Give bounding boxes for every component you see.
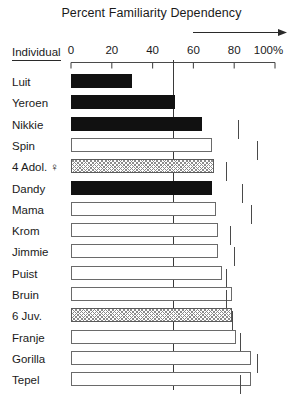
- bar-row: Mama: [0, 200, 303, 221]
- bar-category-label: Yeroen: [12, 97, 48, 110]
- bar-row: Yeroen: [0, 93, 303, 114]
- x-tick-label-60: 60: [187, 44, 200, 56]
- bar-category-label: Puist: [12, 268, 38, 281]
- bar-row: Franje: [0, 328, 303, 349]
- bar-category-label: Franje: [12, 332, 45, 345]
- bar-row: Luit: [0, 72, 303, 93]
- x-axis-line: [0, 60, 303, 72]
- bar-franje: [71, 330, 236, 344]
- bar-dandy: [71, 181, 212, 195]
- bar-krom: [71, 223, 218, 237]
- bar-category-label: Jimmie: [12, 246, 48, 259]
- direction-arrow-icon: [193, 28, 287, 37]
- bar-category-label: Dandy: [12, 183, 45, 196]
- percent-familiarity-dependency-chart: Percent Familiarity Dependency Individua…: [0, 0, 303, 415]
- range-tick-mark: [240, 375, 241, 394]
- x-tick-label-0: 0: [68, 44, 74, 56]
- bar-category-label: Bruin: [12, 289, 39, 302]
- bar-tepel: [71, 372, 251, 386]
- bar-mama: [71, 202, 216, 216]
- bar-row: Bruin: [0, 285, 303, 306]
- x-axis-tick-labels: 020406080100%: [0, 44, 303, 60]
- bar-category-label: Mama: [12, 204, 44, 217]
- bar-bruin: [71, 287, 232, 301]
- bar-category-label: Nikkie: [12, 119, 43, 132]
- bar-category-label: Luit: [12, 76, 31, 89]
- bar-jimmie: [71, 244, 218, 258]
- chart-title: Percent Familiarity Dependency: [0, 6, 303, 20]
- bar-category-label: Krom: [12, 225, 39, 238]
- x-tick-label-100: 100%: [254, 44, 283, 56]
- bar-row: Jimmie: [0, 242, 303, 263]
- bar-yeroen: [71, 95, 175, 109]
- bar-row: Nikkie: [0, 115, 303, 136]
- bar-category-label: Tepel: [12, 374, 40, 387]
- x-tick-label-40: 40: [146, 44, 159, 56]
- bar-category-label: 6 Juv.: [12, 310, 42, 323]
- bar-category-label: Spin: [12, 140, 35, 153]
- x-tick-label-80: 80: [228, 44, 241, 56]
- bar-puist: [71, 266, 222, 280]
- x-tick-label-20: 20: [105, 44, 118, 56]
- bar-row: 4 Adol. ♀: [0, 157, 303, 178]
- bar-4-adol: [71, 159, 214, 173]
- bar-row: Tepel: [0, 370, 303, 391]
- bar-row: Gorilla: [0, 349, 303, 370]
- bar-spin: [71, 138, 212, 152]
- bar-gorilla: [71, 351, 251, 365]
- bar-row: Dandy: [0, 179, 303, 200]
- bar-luit: [71, 74, 132, 88]
- plot-area: LuitYeroenNikkieSpin4 Adol. ♀DandyMamaKr…: [0, 72, 303, 408]
- bar-row: 6 Juv.: [0, 306, 303, 327]
- bar-row: Spin: [0, 136, 303, 157]
- bar-6-juv: [71, 308, 232, 322]
- bar-category-label: 4 Adol. ♀: [12, 161, 59, 174]
- bar-row: Puist: [0, 264, 303, 285]
- bar-nikkie: [71, 117, 202, 131]
- bar-category-label: Gorilla: [12, 353, 45, 366]
- bar-row: Krom: [0, 221, 303, 242]
